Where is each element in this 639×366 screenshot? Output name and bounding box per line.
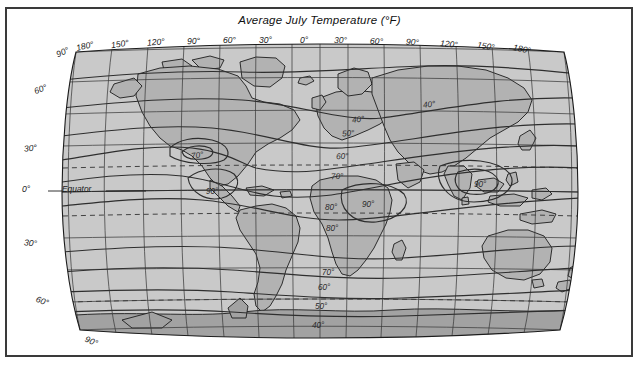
isotherm-label: 70°: [331, 172, 344, 181]
lon-label: 120°: [147, 36, 166, 48]
lon-label: 60°: [223, 35, 236, 45]
isotherm-label: 70°: [322, 268, 334, 277]
lon-label: 120°: [440, 38, 459, 50]
lon-label: 90°: [406, 37, 420, 48]
isotherm-label: 50°: [315, 302, 327, 311]
lon-label: 30°: [334, 35, 347, 45]
equator-label: Equator: [62, 184, 91, 194]
isotherm-label: 40°: [312, 321, 324, 330]
isotherm-label: 80°: [326, 224, 338, 233]
lon-label: 90°: [187, 36, 201, 47]
lon-label: 60°: [370, 36, 384, 47]
lon-label: 30°: [259, 35, 272, 45]
isotherm-label: 60°: [318, 283, 330, 292]
lat-label: 0°: [22, 184, 30, 194]
figure-page: Average July Temperature (°F): [0, 0, 639, 366]
isotherm-label: 50°: [342, 129, 355, 139]
isotherm-label: 70°: [190, 150, 204, 161]
isotherm-label: 90°: [474, 180, 486, 189]
isotherm-label: 90°: [362, 200, 374, 209]
isotherm-label: 60°: [336, 152, 349, 162]
isotherm-label: 90°: [206, 187, 218, 196]
isotherm-label: 40°: [352, 114, 365, 124]
isotherm-label: 80°: [325, 203, 337, 212]
lon-label: 0°: [300, 35, 308, 45]
isotherm-label: 40°: [423, 99, 436, 109]
lat-label: 30°: [24, 142, 38, 153]
lat-label: 30°: [24, 237, 38, 248]
world-temperature-map: Equator: [42, 40, 598, 340]
map-svg: [42, 40, 598, 340]
page-title: Average July Temperature (°F): [0, 14, 639, 26]
